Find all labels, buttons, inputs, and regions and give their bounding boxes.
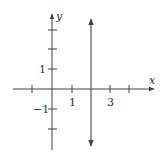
- y-axis-label: y: [55, 10, 63, 23]
- coordinate-plane: y x 1 3 1 −1: [0, 0, 168, 160]
- y-tick-label-1: 1: [39, 63, 46, 76]
- x-axis-label: x: [149, 74, 156, 87]
- y-tick-label-neg1: −1: [33, 103, 49, 116]
- x-tick-label-1: 1: [69, 96, 76, 109]
- x-tick-label-3: 3: [107, 96, 114, 109]
